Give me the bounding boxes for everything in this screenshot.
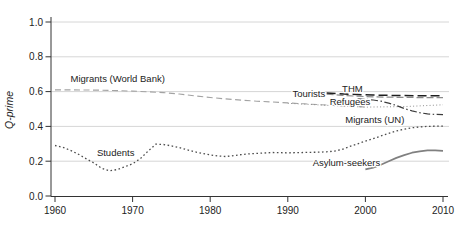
x-tick-label: 1970 [121,205,144,216]
y-tick-label: 0.8 [29,51,43,62]
series-label-refugees: Refugees [330,96,371,107]
series-label-migrants-un: Migrants (UN) [345,114,404,125]
series-label-thm: THM [342,83,363,94]
chart-canvas: 0.00.20.40.60.81.01960197019801990200020… [0,0,474,242]
series-label-asylum-seekers: Asylum-seekers [313,157,381,168]
y-tick-label: 0.4 [29,121,43,132]
series-label-migrants-world-bank: Migrants (World Bank) [71,73,165,84]
q-prime-line-chart: 0.00.20.40.60.81.01960197019801990200020… [0,0,474,242]
y-tick-label: 1.0 [29,17,43,28]
x-tick-label: 2010 [432,205,455,216]
y-tick-label: 0.6 [29,86,43,97]
y-axis-title: Q-prime [3,91,15,129]
x-tick-label: 2000 [354,205,377,216]
series-label-students: Students [97,147,135,158]
x-tick-label: 1960 [44,205,67,216]
y-tick-label: 0.0 [29,191,43,202]
series-label-tourists: Tourists [292,88,325,99]
y-tick-label: 0.2 [29,156,43,167]
x-tick-label: 1990 [277,205,300,216]
x-tick-label: 1980 [199,205,222,216]
